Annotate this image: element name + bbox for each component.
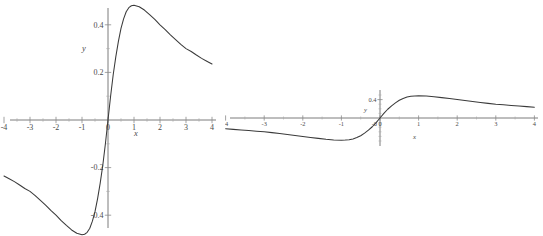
x-tick-label-8: 4 bbox=[533, 120, 537, 127]
right-plot-tick-labels: -4-3-2-1012340.4-0 bbox=[225, 96, 537, 127]
x-tick-label-0: -4 bbox=[1, 123, 8, 132]
x-tick-label-3: -1 bbox=[339, 120, 344, 127]
x-tick-label-7: 3 bbox=[184, 123, 188, 132]
x-tick-label-2: -2 bbox=[300, 120, 305, 127]
x-tick-label-1: -3 bbox=[262, 120, 267, 127]
right-x-axis-label: x bbox=[412, 133, 416, 140]
x-tick-label-3: -1 bbox=[79, 123, 86, 132]
left-y-axis-label: y bbox=[81, 43, 86, 53]
y-tick-label-0: 0.4 bbox=[369, 96, 378, 103]
left-plot-svg: -4-3-2-101234-0.4-0.20.20.4 y x bbox=[0, 0, 240, 236]
right-y-axis-label: y bbox=[363, 106, 368, 113]
left-plot-figure: -4-3-2-101234-0.4-0.20.20.4 y x bbox=[0, 0, 240, 236]
left-x-axis-label: x bbox=[133, 128, 138, 138]
y-tick-label-3: 0.4 bbox=[94, 21, 104, 30]
x-tick-label-0: -4 bbox=[225, 120, 229, 127]
x-tick-label-4: 0 bbox=[378, 120, 381, 127]
x-tick-label-6: 2 bbox=[456, 120, 459, 127]
x-tick-label-2: -2 bbox=[53, 123, 60, 132]
x-tick-label-1: -3 bbox=[27, 123, 34, 132]
right-plot-figure: -4-3-2-1012340.4-0 y x bbox=[225, 0, 543, 236]
x-tick-label-6: 2 bbox=[158, 123, 162, 132]
x-tick-label-8: 4 bbox=[210, 123, 214, 132]
y-tick-label-2: 0.2 bbox=[94, 68, 104, 77]
x-tick-label-5: 1 bbox=[417, 120, 420, 127]
x-tick-label-7: 3 bbox=[494, 120, 497, 127]
left-plot-axes bbox=[10, 8, 216, 228]
right-plot-axes bbox=[230, 90, 538, 146]
right-plot-svg: -4-3-2-1012340.4-0 y x bbox=[225, 0, 543, 236]
